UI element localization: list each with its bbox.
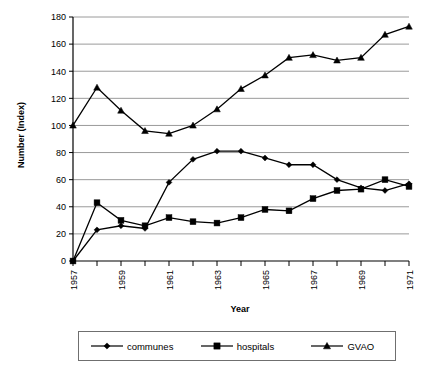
x-tick-label: 1961 (165, 270, 175, 290)
y-axis-title: Number (Index) (16, 102, 26, 168)
x-tick-label: 1963 (213, 270, 223, 290)
marker-diamond (214, 148, 220, 154)
series-hospitals (70, 177, 412, 264)
y-tick-label: 100 (51, 121, 66, 131)
legend-swatch-square-icon (200, 340, 234, 352)
y-tick-label: 140 (51, 67, 66, 77)
legend-item-GVAO[interactable]: GVAO (290, 340, 395, 352)
legend-swatch-triangle-icon (310, 340, 344, 352)
y-tick-label: 120 (51, 94, 66, 104)
marker-square (94, 200, 100, 206)
marker-square (262, 207, 268, 213)
marker-diamond (382, 188, 388, 194)
series-line-communes (73, 151, 409, 261)
legend-label: hospitals (237, 341, 275, 352)
y-tick-label: 160 (51, 39, 66, 49)
marker-square (214, 343, 220, 349)
x-tick-label: 1967 (309, 270, 319, 290)
x-tick-label: 1971 (405, 270, 415, 290)
marker-triangle (406, 23, 413, 29)
series-GVAO (70, 23, 413, 136)
y-tick-label: 20 (56, 229, 66, 239)
marker-square (286, 208, 292, 214)
marker-diamond (334, 177, 340, 183)
marker-diamond (104, 343, 110, 349)
marker-square (142, 223, 148, 229)
marker-square (118, 217, 124, 223)
x-tick-label: 1969 (357, 270, 367, 290)
legend-label: communes (127, 341, 173, 352)
plot-area: 0204060801001201401601801957195919611963… (0, 0, 426, 300)
y-tick-label: 80 (56, 148, 66, 158)
marker-square (310, 196, 316, 202)
line-chart: Number (Index) 0204060801001201401601801… (0, 0, 426, 371)
legend-item-communes[interactable]: communes (79, 340, 184, 352)
marker-diamond (286, 162, 292, 168)
x-tick-label: 1957 (69, 270, 79, 290)
marker-diamond (262, 155, 268, 161)
legend-label: GVAO (347, 341, 374, 352)
legend-swatch-diamond-icon (90, 340, 124, 352)
y-tick-label: 40 (56, 202, 66, 212)
marker-square (190, 219, 196, 225)
marker-diamond (118, 223, 124, 229)
series-communes (70, 148, 412, 264)
marker-square (70, 258, 76, 264)
marker-square (238, 215, 244, 221)
marker-square (334, 188, 340, 194)
x-tick-label: 1965 (261, 270, 271, 290)
y-tick-label: 0 (61, 256, 66, 266)
x-axis-title-wrap: Year (70, 298, 410, 316)
series-line-GVAO (73, 26, 409, 133)
x-axis-title: Year (230, 304, 249, 314)
chart-legend: communeshospitalsGVAO (78, 331, 396, 361)
marker-square (358, 186, 364, 192)
marker-square (406, 184, 412, 190)
y-tick-label: 180 (51, 12, 66, 22)
marker-square (214, 220, 220, 226)
marker-triangle (238, 86, 245, 92)
marker-diamond (238, 148, 244, 154)
legend-item-hospitals[interactable]: hospitals (184, 340, 289, 352)
marker-square (166, 215, 172, 221)
x-tick-label: 1959 (117, 270, 127, 290)
y-axis-title-wrap: Number (Index) (10, 0, 32, 270)
marker-square (382, 177, 388, 183)
marker-triangle (94, 84, 101, 90)
y-tick-label: 60 (56, 175, 66, 185)
